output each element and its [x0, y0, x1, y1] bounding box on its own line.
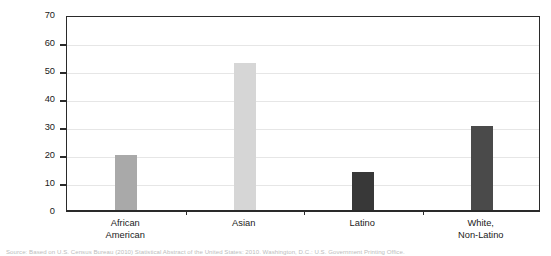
y-axis-tick-label: 60	[29, 39, 55, 48]
y-axis-tick-label: 20	[29, 151, 55, 160]
x-axis-category-label-line: African	[66, 218, 185, 230]
x-axis-category-label: Asian	[185, 218, 304, 230]
x-axis-category-label: White,Non-Latino	[422, 218, 541, 241]
bar-african-american	[115, 155, 137, 210]
y-axis-tick-mark	[60, 72, 67, 74]
x-axis-tick-mark	[423, 210, 424, 215]
plot-area	[66, 16, 540, 212]
y-axis-tick-mark	[60, 100, 67, 102]
gridline	[67, 45, 539, 46]
x-axis-category-label-line: Latino	[303, 218, 422, 230]
bar-white-non-latino	[471, 126, 493, 210]
y-axis-tick-label: 50	[29, 67, 55, 76]
x-axis-category-label-line: Asian	[185, 218, 304, 230]
y-axis-tick-label: 30	[29, 123, 55, 132]
gridline	[67, 185, 539, 186]
x-axis-tick-mark	[304, 210, 305, 215]
bar-asian	[234, 63, 256, 210]
y-axis-title: Percentage That Has a 4-Year College Deg…	[6, 0, 36, 44]
y-axis-tick-mark	[60, 184, 67, 186]
y-axis-tick-mark	[60, 128, 67, 130]
y-axis-tick-label: 0	[29, 207, 55, 216]
y-axis-tick-label: 70	[29, 11, 55, 20]
x-axis-category-label: AfricanAmerican	[66, 218, 185, 241]
y-axis-tick-mark	[60, 44, 67, 46]
bar-latino	[352, 172, 374, 210]
x-axis-category-label: Latino	[303, 218, 422, 230]
y-axis-tick-label: 10	[29, 179, 55, 188]
gridline	[67, 129, 539, 130]
x-axis-category-label-line: White,	[422, 218, 541, 230]
x-axis-tick-mark	[186, 210, 187, 215]
bar-chart-figure: Percentage That Has a 4-Year College Deg…	[0, 0, 551, 256]
gridline	[67, 73, 539, 74]
gridline	[67, 157, 539, 158]
y-axis-tick-mark	[60, 156, 67, 158]
source-caption: Source: Based on U.S. Census Bureau (201…	[6, 248, 546, 256]
x-axis-category-label-line: American	[66, 230, 185, 242]
x-axis-category-label-line: Non-Latino	[422, 230, 541, 242]
gridline	[67, 101, 539, 102]
y-axis-tick-label: 40	[29, 95, 55, 104]
